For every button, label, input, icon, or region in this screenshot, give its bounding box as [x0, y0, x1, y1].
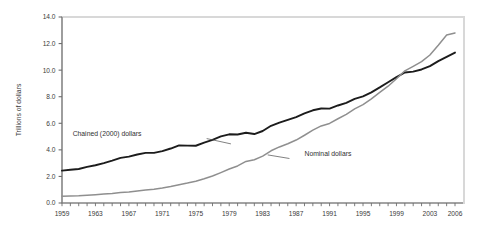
x-axis-tick-label: 2006 — [448, 210, 463, 217]
gdp-line-chart: 0.02.04.06.08.010.012.014.0 195919631967… — [0, 0, 486, 237]
y-axis-tick-label: 12.0 — [43, 40, 56, 47]
series-label: Nominal dollars — [304, 150, 351, 157]
x-axis-tick-label: 1963 — [88, 210, 103, 217]
y-axis-tick-label: 6.0 — [46, 120, 55, 127]
x-axis-tick-label: 1967 — [122, 210, 137, 217]
y-axis-tick-label: 8.0 — [46, 93, 55, 100]
series-label: Chained (2000) dollars — [73, 130, 142, 138]
x-axis-tick-label: 1971 — [155, 210, 170, 217]
x-axis-tick-label: 1995 — [356, 210, 371, 217]
chart-figure: 0.02.04.06.08.010.012.014.0 195919631967… — [0, 0, 486, 237]
x-axis-tick-label: 1999 — [389, 210, 404, 217]
x-axis-tick-label: 1991 — [322, 210, 337, 217]
y-axis-title: Trillions of dollars — [15, 83, 22, 136]
chart-background — [0, 0, 486, 237]
x-axis-tick-label: 1959 — [55, 210, 70, 217]
x-axis-tick-label: 1983 — [255, 210, 270, 217]
y-axis-tick-label: 0.0 — [46, 199, 55, 206]
y-axis-tick-label: 4.0 — [46, 146, 55, 153]
x-axis-tick-label: 2003 — [423, 210, 438, 217]
y-axis-tick-label: 14.0 — [43, 13, 56, 20]
y-axis-tick-label: 2.0 — [46, 173, 55, 180]
y-axis-title-text: Trillions of dollars — [15, 83, 22, 136]
x-axis-tick-label: 1987 — [289, 210, 304, 217]
y-axis-tick-label: 10.0 — [43, 67, 56, 74]
x-axis-tick-label: 1975 — [188, 210, 203, 217]
x-axis-tick-label: 1979 — [222, 210, 237, 217]
